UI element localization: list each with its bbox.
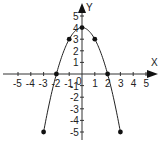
y-tick-label: 3 [73, 34, 79, 45]
x-tick-label: -4 [26, 78, 35, 89]
y-tick-label: -4 [70, 115, 79, 126]
y-tick-label: 5 [73, 11, 79, 22]
y-tick-label: -2 [70, 92, 79, 103]
y-tick-label: -5 [70, 127, 79, 138]
data-point [80, 25, 85, 30]
data-point [105, 72, 110, 77]
x-tick-label: -5 [13, 78, 22, 89]
y-axis-label: Y [86, 2, 93, 13]
data-point [118, 130, 123, 135]
x-axis-arrow-icon [147, 70, 158, 78]
parabola-graph: XY-5-4-3-2-112345-5-4-3-2-1123450 [0, 0, 162, 144]
x-tick-label: -3 [39, 78, 48, 89]
origin-label: 0 [76, 76, 82, 87]
x-tick-label: 3 [118, 78, 124, 89]
x-axis-label: X [151, 57, 158, 68]
data-point [41, 130, 46, 135]
x-tick-label: 4 [131, 78, 137, 89]
x-tick-label: 5 [144, 78, 150, 89]
chart-canvas: XY-5-4-3-2-112345-5-4-3-2-1123450 [0, 0, 162, 144]
y-tick-label: -3 [70, 104, 79, 115]
data-point [67, 37, 72, 42]
y-tick-label: 2 [73, 46, 79, 57]
y-tick-label: 1 [73, 57, 79, 68]
y-axis-arrow-icon [78, 3, 86, 13]
data-point [54, 72, 59, 77]
data-point [92, 37, 97, 42]
x-tick-label: 1 [92, 78, 98, 89]
